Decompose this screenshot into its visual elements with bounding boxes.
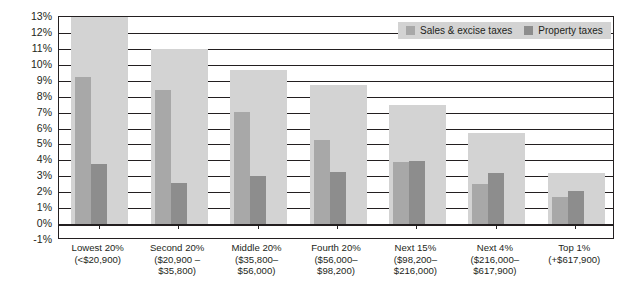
legend-label-sales-excise: Sales & excise taxes bbox=[420, 25, 512, 36]
bar-property-taxes bbox=[91, 164, 107, 225]
category-name: Top 1% bbox=[535, 242, 614, 254]
y-axis-tick-mark bbox=[58, 17, 59, 18]
category-range: $98,200) bbox=[296, 265, 375, 277]
legend-swatch-sales-excise bbox=[406, 26, 415, 35]
y-axis-tick-label: 10% bbox=[6, 59, 52, 70]
x-axis-category-label: Middle 20%($35,800–$56,000) bbox=[217, 242, 296, 277]
category-range: ($216,000– bbox=[455, 254, 534, 266]
y-axis-tick-label: 4% bbox=[6, 154, 52, 165]
bar-property-taxes bbox=[409, 161, 425, 224]
x-axis-category-label: Lowest 20%(<$20,900) bbox=[58, 242, 137, 265]
y-axis-tick-label: 3% bbox=[6, 170, 52, 181]
y-axis-tick-label: 5% bbox=[6, 138, 52, 149]
y-axis-tick-label: 12% bbox=[6, 27, 52, 38]
category-range: ($20,900 – bbox=[137, 254, 216, 266]
bar-sales-excise-taxes bbox=[552, 197, 568, 224]
category-name: Lowest 20% bbox=[58, 242, 137, 254]
category-name: Fourth 20% bbox=[296, 242, 375, 254]
zero-baseline bbox=[59, 224, 613, 226]
y-axis-tick-label: 8% bbox=[6, 90, 52, 101]
y-axis-tick-label: 11% bbox=[6, 43, 52, 54]
category-range: ($35,800– bbox=[217, 254, 296, 266]
y-axis-tick-label: 1% bbox=[6, 202, 52, 213]
category-range: $216,000) bbox=[376, 265, 455, 277]
legend-item-property: Property taxes bbox=[524, 25, 602, 36]
category-range: (+$617,900) bbox=[535, 254, 614, 266]
y-axis-tick-label: 2% bbox=[6, 186, 52, 197]
bar-property-taxes bbox=[330, 172, 346, 225]
x-axis-tick-mark bbox=[178, 224, 179, 229]
bar-sales-excise-taxes bbox=[75, 77, 91, 224]
x-axis-tick-mark bbox=[575, 224, 576, 229]
category-name: Second 20% bbox=[137, 242, 216, 254]
category-name: Next 4% bbox=[455, 242, 534, 254]
category-name: Next 15% bbox=[376, 242, 455, 254]
x-axis-category-label: Second 20%($20,900 –$35,800) bbox=[137, 242, 216, 277]
y-axis-tick-label: 0% bbox=[6, 218, 52, 229]
category-name: Middle 20% bbox=[217, 242, 296, 254]
y-axis-tick-label: 13% bbox=[6, 11, 52, 22]
bar-property-taxes bbox=[568, 191, 584, 224]
category-range: $617,900) bbox=[455, 265, 534, 277]
x-axis-category-label: Fourth 20%($56,000–$98,200) bbox=[296, 242, 375, 277]
plot-area bbox=[58, 16, 614, 239]
gridline bbox=[59, 49, 613, 50]
x-axis-tick-mark bbox=[337, 224, 338, 229]
y-axis-tick-label: 9% bbox=[6, 74, 52, 85]
legend-label-property: Property taxes bbox=[538, 25, 602, 36]
bar-chart: -1%0%1%2%3%4%5%6%7%8%9%10%11%12%13% Sale… bbox=[0, 0, 622, 282]
x-axis-tick-mark bbox=[496, 224, 497, 229]
bar-property-taxes bbox=[250, 176, 266, 224]
gridline bbox=[59, 81, 613, 82]
x-axis-tick-mark bbox=[258, 224, 259, 229]
y-axis-tick-label: -1% bbox=[6, 234, 52, 245]
bar-sales-excise-taxes bbox=[155, 90, 171, 224]
chart-legend: Sales & excise taxes Property taxes bbox=[398, 22, 611, 39]
category-range: ($98,200– bbox=[376, 254, 455, 266]
x-axis-tick-mark bbox=[99, 224, 100, 229]
legend-swatch-property bbox=[524, 26, 533, 35]
category-range: (<$20,900) bbox=[58, 254, 137, 266]
x-axis-category-label: Top 1%(+$617,900) bbox=[535, 242, 614, 265]
bar-property-taxes bbox=[171, 183, 187, 224]
legend-item-sales-excise: Sales & excise taxes bbox=[406, 25, 512, 36]
bar-sales-excise-taxes bbox=[314, 140, 330, 224]
bar-sales-excise-taxes bbox=[234, 112, 250, 224]
bar-sales-excise-taxes bbox=[393, 162, 409, 224]
category-range: ($56,000– bbox=[296, 254, 375, 266]
x-axis-tick-mark bbox=[416, 224, 417, 229]
gridline bbox=[59, 65, 613, 66]
bar-sales-excise-taxes bbox=[472, 184, 488, 224]
y-axis-tick-label: 7% bbox=[6, 106, 52, 117]
x-axis-category-label: Next 15%($98,200–$216,000) bbox=[376, 242, 455, 277]
x-axis: Lowest 20%(<$20,900)Second 20%($20,900 –… bbox=[58, 242, 614, 282]
category-range: $35,800) bbox=[137, 265, 216, 277]
category-range: $56,000) bbox=[217, 265, 296, 277]
x-axis-category-label: Next 4%($216,000–$617,900) bbox=[455, 242, 534, 277]
y-axis-tick-label: 6% bbox=[6, 122, 52, 133]
bar-property-taxes bbox=[488, 173, 504, 224]
